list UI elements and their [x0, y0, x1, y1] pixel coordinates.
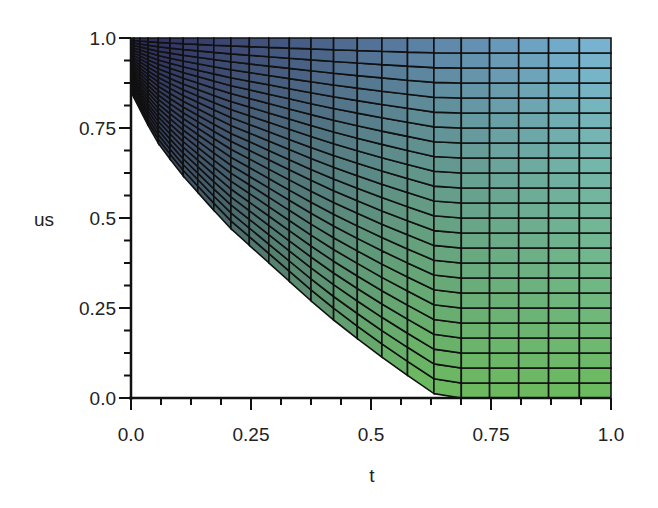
x-tick-label: 0.5	[358, 424, 384, 445]
y-tick-label: 0.0	[90, 388, 116, 409]
mesh-cell	[549, 338, 580, 353]
mesh-cell	[434, 68, 461, 83]
mesh-cell	[549, 293, 580, 308]
mesh-cell	[519, 263, 549, 278]
mesh-cell	[579, 173, 611, 188]
mesh-cell	[490, 98, 519, 113]
mesh-cell	[461, 53, 489, 68]
mesh-cell	[461, 308, 489, 323]
mesh-cell	[461, 203, 489, 218]
mesh-cell	[519, 98, 549, 113]
mesh-cell	[357, 63, 382, 78]
mesh-cell	[549, 218, 580, 233]
mesh-cell	[519, 248, 549, 263]
mesh-cell	[289, 38, 311, 49]
mesh-cell	[549, 233, 580, 248]
mesh-cell	[549, 203, 580, 218]
mesh-cell	[490, 218, 519, 233]
mesh-cell	[549, 98, 580, 113]
mesh-cell	[461, 158, 489, 173]
mesh-cell	[579, 368, 611, 383]
mesh-cell	[382, 38, 408, 52]
mesh-cell	[579, 188, 611, 203]
mesh-cell	[461, 323, 489, 338]
mesh-cell	[549, 323, 580, 338]
mesh-cell	[490, 383, 519, 398]
mesh-cell	[461, 233, 489, 248]
mesh-cell	[549, 368, 580, 383]
mesh-cell	[461, 218, 489, 233]
mesh-cell	[490, 203, 519, 218]
mesh-cell	[490, 53, 519, 68]
mesh-cell	[140, 38, 148, 42]
mesh-cell	[519, 83, 549, 98]
mesh-cell	[434, 201, 461, 218]
mesh-cell	[382, 65, 408, 81]
mesh-cell	[434, 38, 461, 53]
mesh-cell	[579, 293, 611, 308]
mesh-cell	[434, 171, 461, 188]
mesh-cell	[490, 263, 519, 278]
mesh-cell	[519, 203, 549, 218]
mesh-cell	[214, 38, 231, 46]
mesh-cell	[490, 233, 519, 248]
mesh-cell	[269, 38, 290, 48]
mesh-cell	[249, 47, 268, 57]
mesh-cell	[490, 158, 519, 173]
mesh-cell	[490, 368, 519, 383]
mesh-cell	[490, 278, 519, 293]
mesh-cell	[519, 173, 549, 188]
mesh-cell	[434, 53, 461, 68]
mesh-cell	[579, 263, 611, 278]
mesh-cell	[461, 338, 489, 353]
mesh-cell	[519, 158, 549, 173]
mesh-cell	[579, 113, 611, 128]
mesh-cell	[549, 188, 580, 203]
mesh-cell	[461, 188, 489, 203]
mesh-cell	[461, 263, 489, 278]
mesh-cell	[490, 113, 519, 128]
mesh-cell	[579, 53, 611, 68]
mesh-cell	[158, 38, 170, 43]
mesh-cell	[579, 203, 611, 218]
mesh-cell	[579, 323, 611, 338]
mesh-cell	[549, 173, 580, 188]
mesh-cell	[434, 186, 461, 203]
y-tick-label: 1.0	[90, 28, 116, 49]
mesh-cell	[461, 98, 489, 113]
mesh-cell	[408, 52, 434, 68]
mesh-cell	[170, 38, 183, 44]
mesh-cell	[334, 62, 358, 76]
mesh-cell	[519, 308, 549, 323]
mesh-cell	[549, 308, 580, 323]
mesh-cell	[490, 68, 519, 83]
mesh-cell	[334, 50, 358, 63]
mesh-cell	[249, 38, 268, 47]
mesh-cell	[434, 127, 461, 143]
mesh-cell	[490, 353, 519, 368]
mesh-cell	[519, 233, 549, 248]
mesh-cell	[519, 143, 549, 158]
mesh-cell	[461, 128, 489, 143]
mesh-cell	[549, 38, 580, 53]
mesh-cell	[408, 66, 434, 82]
mesh-cell	[434, 142, 461, 158]
mesh-cell	[549, 278, 580, 293]
mesh-cell	[579, 143, 611, 158]
mesh-cell	[579, 218, 611, 233]
mesh-cell	[461, 383, 489, 398]
mesh-cell	[311, 38, 334, 50]
mesh-cell	[461, 278, 489, 293]
mesh-cell	[461, 173, 489, 188]
mesh-cell	[311, 49, 334, 62]
chart: 0.00.250.50.751.0 0.00.250.50.751.0 t us	[0, 0, 658, 508]
mesh-cell	[134, 38, 140, 41]
mesh-cell	[519, 323, 549, 338]
mesh-cell	[334, 38, 358, 51]
mesh-cell	[579, 353, 611, 368]
mesh-cell	[434, 97, 461, 113]
mesh-cell	[490, 338, 519, 353]
mesh-cell	[490, 248, 519, 263]
mesh-cell	[579, 308, 611, 323]
mesh-cell	[231, 38, 249, 47]
